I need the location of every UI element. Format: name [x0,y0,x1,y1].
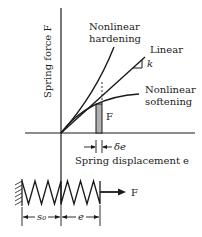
force-arrowhead [118,189,126,196]
arrowhead-right [102,145,107,149]
shaded-strip [96,104,102,133]
e-arrowhead-right [94,215,99,219]
softening-label-2: softening [145,96,193,107]
arrowhead-left [91,145,96,149]
spring-coil [22,181,100,204]
hardening-label-2: hardening [89,33,142,44]
strip-label: F [106,111,113,122]
slope-label: k [147,58,153,69]
linear-label: Linear [150,44,183,55]
s0-arrowhead-right [55,215,60,219]
wall-hatch [15,181,22,205]
increment-label: δe [114,141,126,152]
spring-force-diagram: Spring force F Nonlinear hardening Linea… [0,0,202,237]
force-label: F [131,187,138,198]
softening-label-1: Nonlinear [145,84,196,95]
e-arrowhead-left [62,215,67,219]
y-axis-label: Spring force F [42,25,53,98]
s0-arrowhead-left [23,215,28,219]
e-label: e [78,211,84,222]
hardening-label-1: Nonlinear [89,21,140,32]
x-axis-label: Spring displacement e [75,155,189,166]
s0-label: s₀ [37,211,46,222]
